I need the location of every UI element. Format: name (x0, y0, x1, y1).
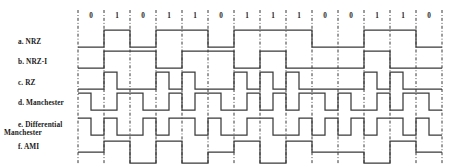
waveform-rz (78, 72, 442, 89)
bit-label: 0 (141, 12, 145, 20)
row-label-nrz-i: b. NRZ-I (4, 58, 78, 66)
bit-label: 0 (427, 12, 431, 20)
waveform-nrz-i (78, 51, 442, 68)
bit-label: 1 (271, 12, 275, 20)
line-coding-figure: a. NRZ b. NRZ-I c. RZ d. Manchester e. D… (0, 0, 456, 167)
waveform-ami (78, 141, 442, 163)
bit-label: 1 (245, 12, 249, 20)
bit-label: 0 (323, 12, 327, 20)
bit-label: 1 (167, 12, 171, 20)
bit-label: 1 (375, 12, 379, 20)
row-label-rz: c. RZ (4, 79, 78, 87)
bit-label: 0 (89, 12, 93, 20)
bit-label: 1 (297, 12, 301, 20)
row-label-nrz: a. NRZ (4, 38, 78, 46)
row-label-differential-manchester-line-2: Manchester (4, 129, 42, 137)
bit-label: 0 (219, 12, 223, 20)
bit-label: 1 (401, 12, 405, 20)
bit-label: 0 (349, 12, 353, 20)
row-label-column: a. NRZ b. NRZ-I c. RZ d. Manchester e. D… (0, 0, 78, 167)
waveform-manchester (78, 93, 442, 110)
row-label-differential-manchester: e. Differential Manchester (4, 121, 78, 137)
row-label-manchester: d. Manchester (4, 99, 78, 107)
bit-label: 1 (193, 12, 197, 20)
bit-label: 1 (115, 12, 119, 20)
row-label-ami: f. AMI (4, 143, 78, 151)
